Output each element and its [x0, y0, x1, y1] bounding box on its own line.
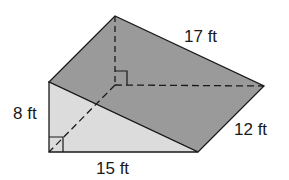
label-base: 15 ft	[96, 159, 129, 178]
label-hypotenuse: 17 ft	[184, 27, 217, 46]
label-depth: 12 ft	[234, 120, 267, 139]
label-height: 8 ft	[13, 104, 37, 123]
triangular-prism-diagram: 8 ft 15 ft 12 ft 17 ft	[0, 0, 289, 180]
